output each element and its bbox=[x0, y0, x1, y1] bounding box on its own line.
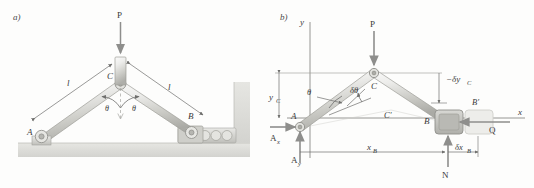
label-yc: y bbox=[268, 92, 273, 102]
dimension-xb: x B bbox=[300, 142, 445, 154]
label-p: P bbox=[117, 10, 122, 20]
label-c-b: C bbox=[371, 81, 378, 91]
pin-joint-a-b-core bbox=[298, 125, 302, 129]
panel-a-svg: P θ θ l l A B C a) bbox=[0, 0, 267, 188]
load-plunger bbox=[115, 57, 126, 85]
figure-root: P θ θ l l A B C a) bbox=[0, 0, 534, 188]
panel-b: y x y C −δy C C bbox=[267, 0, 534, 188]
panel-tag-b: b) bbox=[280, 12, 288, 22]
label-a-b: A bbox=[290, 111, 297, 121]
label-ay: A bbox=[291, 155, 298, 165]
label-b: B bbox=[188, 111, 194, 121]
dimension-length-right: l bbox=[130, 64, 203, 115]
panel-tag-a: a) bbox=[13, 12, 21, 22]
wall bbox=[234, 82, 250, 143]
label-ax: A bbox=[270, 133, 277, 143]
panel-b-svg: y x y C −δy C C bbox=[267, 0, 534, 188]
slider-block-b-inner bbox=[439, 114, 459, 130]
pin-joint-b bbox=[186, 127, 198, 139]
label-p-b: P bbox=[370, 19, 375, 29]
label-theta-right: θ bbox=[132, 104, 136, 113]
label-xb-sub: B bbox=[373, 147, 377, 154]
dimension-delta-yc: −δy C bbox=[431, 73, 472, 103]
track-roller-3 bbox=[222, 131, 232, 141]
label-axis-x: x bbox=[517, 107, 522, 117]
label-l-left: l bbox=[67, 78, 70, 88]
label-b-b: B bbox=[424, 116, 430, 126]
panel-a: P θ θ l l A B C a) bbox=[0, 0, 267, 188]
dimension-length-left: l bbox=[35, 64, 112, 118]
label-delta-yc: −δy bbox=[446, 74, 460, 84]
label-delta-xb: δx bbox=[455, 142, 463, 152]
dimension-delta-xb: δx B bbox=[448, 136, 478, 157]
pin-joint-c-b-core bbox=[372, 71, 376, 75]
label-b-virtual: B′ bbox=[472, 97, 479, 107]
label-theta-left: θ bbox=[105, 104, 109, 113]
label-l-right: l bbox=[168, 82, 171, 92]
label-ax-sub: x bbox=[276, 138, 280, 145]
label-delta-theta: δθ bbox=[350, 85, 358, 95]
label-delta-xb-sub: B bbox=[467, 147, 471, 154]
label-n: N bbox=[442, 170, 449, 180]
label-q: Q bbox=[489, 125, 496, 135]
ground-surface bbox=[18, 143, 250, 157]
track-roller-2 bbox=[211, 131, 221, 141]
label-yc-sub: C bbox=[276, 97, 281, 104]
virtual-rotation-arc bbox=[358, 93, 362, 102]
label-theta-b: θ bbox=[307, 87, 311, 97]
bar-cb bbox=[118, 81, 194, 136]
label-c-virtual: C′ bbox=[384, 110, 392, 120]
label-a: A bbox=[26, 127, 33, 137]
label-c: C bbox=[107, 71, 114, 81]
label-axis-y: y bbox=[299, 17, 304, 27]
label-delta-yc-sub: C bbox=[467, 79, 472, 86]
label-xb: x bbox=[366, 142, 371, 152]
label-ay-sub: y bbox=[297, 160, 301, 167]
dimension-yc: y C bbox=[268, 73, 281, 118]
bar-ac bbox=[40, 81, 123, 143]
